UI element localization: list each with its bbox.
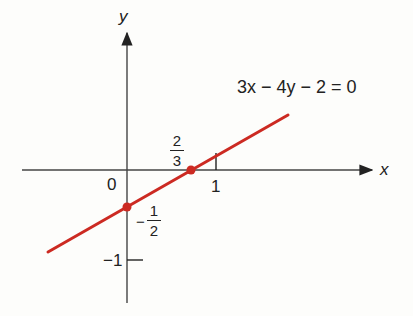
x-intercept-dot — [187, 166, 196, 175]
graph-canvas — [0, 0, 413, 316]
x-intercept-denominator: 3 — [173, 153, 181, 168]
y-axis-label: y — [119, 8, 128, 25]
y-intercept-fraction: 1 2 — [147, 203, 161, 238]
x-intercept-numerator: 2 — [173, 133, 181, 148]
x-tick-one-label: 1 — [211, 178, 220, 195]
equation-label: 3x − 4y − 2 = 0 — [237, 78, 357, 96]
y-intercept-dot — [123, 203, 132, 212]
fraction-bar — [147, 220, 161, 221]
origin-label: 0 — [107, 176, 116, 193]
equation-line — [48, 115, 288, 252]
x-axis-label: x — [380, 161, 389, 178]
fraction-bar — [170, 150, 184, 151]
y-intercept-sign: − — [136, 214, 145, 229]
y-tick-minus-one-label: −1 — [103, 252, 122, 269]
y-intercept-denominator: 2 — [150, 223, 158, 238]
y-intercept-numerator: 1 — [150, 203, 158, 218]
x-intercept-fraction: 2 3 — [170, 133, 184, 168]
